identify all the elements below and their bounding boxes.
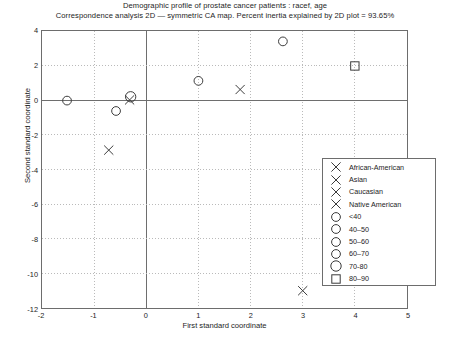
y-tick-label: 4: [34, 26, 38, 35]
legend-item-3[interactable]: Native American: [323, 198, 435, 210]
circle-marker-icon: [323, 223, 349, 235]
legend-item-label: <40: [349, 212, 361, 221]
x-axis-label: First standard coordinate: [41, 321, 408, 330]
y-tick-label: 0: [34, 95, 38, 104]
y-tick-label: -2: [31, 130, 38, 139]
y-tick-label: -12: [27, 305, 38, 314]
legend-item-label: 50–60: [349, 237, 369, 246]
x-tick-label: 4: [354, 311, 358, 320]
legend-item-label: African-American: [349, 163, 404, 172]
chart-title-block: Demographic profile of prostate cancer p…: [0, 1, 450, 21]
series-5: [279, 37, 288, 46]
legend-item-label: 80–90: [349, 274, 369, 283]
x-tick-label: 1: [196, 311, 200, 320]
cross-marker-icon: [323, 198, 349, 210]
x-tick-label: -1: [90, 311, 97, 320]
legend-item-label: 70-80: [349, 262, 367, 271]
legend-item-2[interactable]: Caucasian: [323, 186, 435, 198]
cross-marker-icon: [323, 174, 349, 186]
legend-item-label: 60–70: [349, 249, 369, 258]
y-tick-label: -10: [27, 270, 38, 279]
x-tick-label: 0: [144, 311, 148, 320]
circle-marker-icon: [323, 211, 349, 223]
x-tick-label: 5: [406, 311, 410, 320]
legend-item-7[interactable]: 60–70: [323, 248, 435, 260]
legend-item-8[interactable]: 70-80: [323, 260, 435, 272]
series-9: [351, 62, 359, 70]
legend-item-6[interactable]: 50–60: [323, 235, 435, 247]
y-tick-label: -4: [31, 165, 38, 174]
legend-item-4[interactable]: <40: [323, 211, 435, 223]
circle-marker-icon: [323, 248, 349, 260]
x-tick-label: 3: [301, 311, 305, 320]
legend-item-label: Caucasian: [349, 187, 383, 196]
x-tick-label: -2: [38, 311, 45, 320]
series-6: [194, 76, 203, 85]
circle-marker-icon: [323, 236, 349, 248]
cross-marker-icon: [323, 161, 349, 173]
x-tick-label: 2: [249, 311, 253, 320]
legend-item-1[interactable]: Asian: [323, 173, 435, 185]
y-tick-label: -8: [31, 235, 38, 244]
y-tick-label: 2: [34, 60, 38, 69]
legend-item-5[interactable]: 40–50: [323, 223, 435, 235]
y-tick-label: -6: [31, 200, 38, 209]
legend-item-label: Native American: [349, 200, 401, 209]
circle-marker-icon: [323, 260, 349, 272]
chart-subtitle: Correspondence analysis 2D — symmetric C…: [0, 11, 450, 21]
y-axis-label: Second standard coordinate: [23, 56, 32, 216]
page-title: Demographic profile of prostate cancer p…: [0, 1, 450, 11]
legend-item-0[interactable]: African-American: [323, 161, 435, 173]
series-7: [112, 107, 121, 116]
legend-item-9[interactable]: 80–90: [323, 273, 435, 285]
series-3: [104, 146, 113, 155]
chart-legend: African-AmericanAsianCaucasianNative Ame…: [322, 158, 436, 286]
series-0: [236, 85, 245, 94]
legend-item-label: Asian: [349, 175, 367, 184]
square-marker-icon: [323, 273, 349, 285]
cross-marker-icon: [323, 186, 349, 198]
legend-item-label: 40–50: [349, 225, 369, 234]
